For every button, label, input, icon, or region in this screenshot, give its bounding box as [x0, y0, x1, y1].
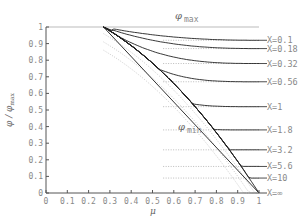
curve-label: X=10 — [267, 173, 287, 183]
curve-label: X=1 — [267, 102, 282, 112]
x-tick-label: 0 — [44, 197, 49, 206]
phi-min-annotation: φ min — [178, 121, 202, 135]
curve-X-1 — [104, 27, 260, 107]
y-tick-label: 0.7 — [29, 73, 44, 82]
reference-lines — [46, 27, 259, 193]
x-tick-label: 0.8 — [209, 197, 224, 206]
y-tick-label: 0.4 — [29, 123, 44, 132]
curve-label: X=0.18 — [267, 44, 298, 54]
y-tick-label: 0.9 — [29, 40, 44, 49]
x-ticks: 00.10.20.30.40.50.60.70.80.91 — [44, 190, 262, 206]
curve-X-0p32 — [104, 27, 260, 64]
y-tick-label: 0.2 — [29, 156, 44, 165]
curve-X-0p1 — [104, 27, 260, 40]
y-tick-label: 0.6 — [29, 89, 44, 98]
curve-label: X=1.8 — [267, 125, 293, 135]
x-tick-label: 0.9 — [230, 197, 245, 206]
dotted-asymptotes — [104, 34, 260, 193]
x-tick-label: 0.5 — [145, 197, 160, 206]
y-tick-label: 0.5 — [29, 106, 44, 115]
curve-label: X=5.6 — [267, 161, 293, 171]
curve-X-10 — [104, 27, 260, 178]
dotted-band — [104, 42, 260, 193]
x-tick-label: 0.2 — [81, 197, 96, 206]
axes — [46, 27, 259, 193]
x-tick-label: 0.6 — [167, 197, 182, 206]
y-label-sub: max — [8, 92, 15, 105]
y-axis-label: φ / φmax — [4, 92, 15, 127]
curve-label: X=0.56 — [267, 77, 298, 87]
x-tick-label: 0.4 — [124, 197, 139, 206]
curve-label: X=0.32 — [267, 59, 298, 69]
y-tick-label: 0.3 — [29, 139, 44, 148]
curve-X-0p56 — [104, 27, 260, 82]
ref-line-phi-min — [104, 27, 260, 193]
x-tick-label: 0.1 — [60, 197, 75, 206]
y-tick-label: 1 — [38, 23, 43, 32]
y-label-phi: φ / φ — [4, 105, 14, 127]
svg-text:min: min — [187, 126, 202, 135]
chart: 00.10.20.30.40.50.60.70.80.91 00.10.20.3… — [0, 0, 304, 223]
curve-label: X=∞ — [267, 188, 282, 198]
y-tick-label: 0 — [38, 189, 43, 198]
svg-text:φ: φ — [178, 121, 185, 132]
phi-max-annotation: φ max — [175, 10, 199, 24]
x-tick-label: 1 — [257, 197, 262, 206]
curve-labels: X=0.1X=0.18X=0.32X=0.56X=1X=1.8X=3.2X=5.… — [259, 35, 298, 198]
svg-text:φ: φ — [175, 10, 182, 21]
curve-X-5p6 — [104, 27, 260, 166]
y-tick-label: 0.8 — [29, 56, 44, 65]
svg-text:max: max — [184, 15, 199, 24]
x-tick-label: 0.3 — [103, 197, 118, 206]
y-tick-label: 0.1 — [29, 172, 44, 181]
x-axis-label: μ — [150, 206, 156, 216]
curve-label: X=3.2 — [267, 145, 293, 155]
x-tick-label: 0.7 — [188, 197, 203, 206]
svg-text:φ / φmax: φ / φmax — [4, 92, 15, 127]
